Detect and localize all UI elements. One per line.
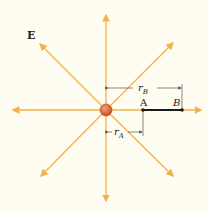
point-a-label: A — [139, 97, 148, 108]
point-b-label: B — [172, 97, 180, 108]
field-line-upleft — [40, 44, 106, 110]
field-line-downright — [106, 110, 173, 176]
r-b-label: rB — [138, 82, 148, 96]
field-label: E — [27, 29, 35, 42]
r-a-label: rA — [114, 126, 124, 140]
field-diagram: E A B rB rA — [0, 0, 209, 211]
point-charge — [100, 104, 112, 116]
point-b — [180, 108, 184, 112]
field-line-downleft — [41, 110, 106, 176]
point-a — [141, 108, 145, 112]
